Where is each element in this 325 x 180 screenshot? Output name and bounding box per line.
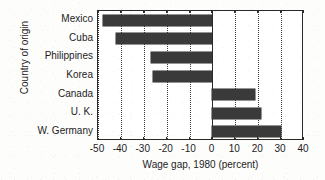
y-tick-label: Mexico — [0, 14, 93, 24]
bar — [212, 108, 260, 119]
bar — [103, 15, 213, 26]
x-tick-mark — [143, 137, 144, 140]
y-tick-label: Cuba — [0, 33, 93, 43]
x-tick-mark-top — [257, 10, 258, 13]
y-tick-label: Philippines — [0, 51, 93, 61]
y-tick-label: Korea — [0, 70, 93, 80]
x-tick-mark-top — [120, 10, 121, 13]
bar — [212, 126, 281, 137]
gridline — [258, 11, 259, 139]
gridline — [121, 11, 122, 139]
bar — [116, 33, 212, 44]
y-tick-label: W. Germany — [0, 126, 93, 136]
gridline-zero — [212, 11, 213, 139]
chart-screenshot: Country of origin MexicoCubaPhilippinesK… — [0, 0, 325, 180]
gridline — [98, 11, 99, 139]
gridline — [235, 11, 236, 139]
x-tick-mark — [303, 137, 304, 140]
gridline — [144, 11, 145, 139]
y-tick-label: Canada — [0, 89, 93, 99]
x-tick-mark — [211, 137, 212, 140]
x-axis-title: Wage gap, 1980 (percent) — [97, 159, 304, 170]
x-tick-mark — [97, 137, 98, 140]
plot-area — [97, 10, 303, 140]
y-tick-label: U. K. — [0, 107, 93, 117]
x-tick-mark — [189, 137, 190, 140]
x-tick-mark-top — [211, 10, 212, 13]
x-tick-label: 40 — [288, 143, 318, 154]
x-tick-mark-top — [97, 10, 98, 13]
x-tick-mark — [257, 137, 258, 140]
bar — [153, 71, 213, 82]
x-tick-mark-top — [303, 10, 304, 13]
x-tick-mark — [234, 137, 235, 140]
gridline — [281, 11, 282, 139]
x-tick-mark — [120, 137, 121, 140]
x-tick-mark — [280, 137, 281, 140]
bar — [212, 89, 254, 100]
plot-inner — [98, 11, 302, 139]
x-tick-mark-top — [166, 10, 167, 13]
x-tick-mark-top — [143, 10, 144, 13]
x-tick-mark-top — [280, 10, 281, 13]
bar — [151, 52, 213, 63]
x-tick-mark-top — [189, 10, 190, 13]
x-tick-mark — [166, 137, 167, 140]
y-axis-tick-labels: MexicoCubaPhilippinesKoreaCanadaU. K.W. … — [0, 10, 93, 140]
x-tick-mark-top — [234, 10, 235, 13]
